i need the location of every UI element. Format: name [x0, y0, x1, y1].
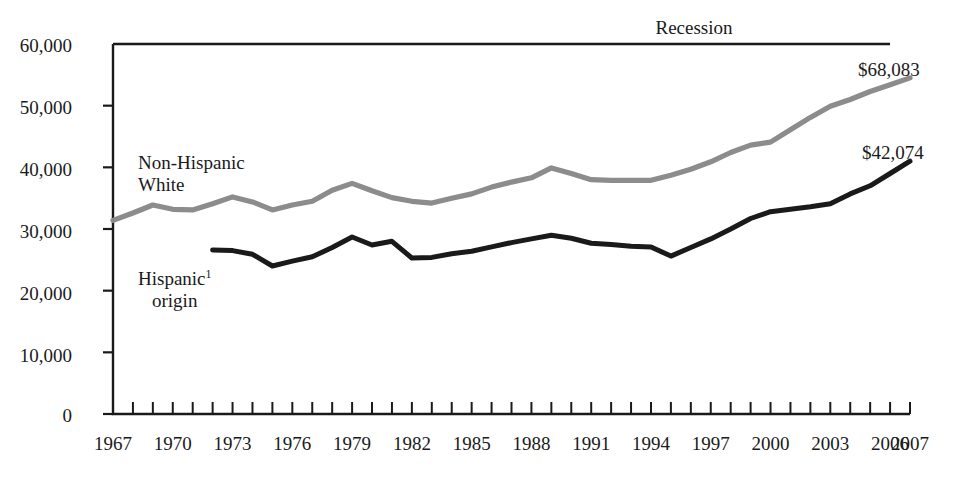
income-line-chart: 60,000 50,000 40,000 30,000 20,000 10,00…	[0, 0, 960, 487]
series-label-non-hispanic-white-line2: White	[138, 174, 245, 196]
axis-spines	[113, 44, 910, 414]
x-tick-label-1967: 1967	[83, 434, 143, 453]
x-tick-label-1982: 1982	[382, 434, 442, 453]
series-label-hispanic-origin: Hispanic1 origin	[138, 268, 212, 313]
series-label-non-hispanic-white: Non-Hispanic White	[138, 152, 245, 197]
series-line-non-hispanic-white	[113, 78, 910, 221]
x-tick-label-1973: 1973	[203, 434, 263, 453]
series-label-hispanic-origin-line1: Hispanic1	[138, 268, 212, 290]
x-tick-label-1979: 1979	[322, 434, 382, 453]
end-label-non-hispanic-white: $68,083	[858, 60, 920, 79]
x-tick-label-2003: 2003	[800, 434, 860, 453]
x-tick-label-1970: 1970	[143, 434, 203, 453]
chart-canvas	[0, 0, 960, 487]
x-tick-label-1991: 1991	[561, 434, 621, 453]
series-label-hispanic-origin-text: Hispanic	[138, 268, 206, 289]
series-line-hispanic-origin	[213, 161, 910, 266]
x-tick-label-1985: 1985	[442, 434, 502, 453]
y-tick-label-30000: 30,000	[20, 222, 72, 241]
y-tick-label-10000: 10,000	[20, 346, 72, 365]
footnote-marker-1: 1	[206, 267, 212, 281]
end-label-hispanic-origin: $42,074	[862, 143, 924, 162]
x-tick-label-1997: 1997	[681, 434, 741, 453]
x-tick-label-2007: 2007	[880, 434, 940, 453]
series-label-non-hispanic-white-line1: Non-Hispanic	[138, 152, 245, 174]
y-tick-label-20000: 20,000	[20, 284, 72, 303]
y-tick-label-50000: 50,000	[20, 98, 72, 117]
x-tick-label-1994: 1994	[621, 434, 681, 453]
x-tick-label-1988: 1988	[501, 434, 561, 453]
y-tick-label-60000: 60,000	[20, 36, 72, 55]
recession-label: Recession	[655, 18, 732, 37]
y-tick-label-40000: 40,000	[20, 160, 72, 179]
x-tick-label-1976: 1976	[262, 434, 322, 453]
y-tick-label-0: 0	[63, 406, 73, 425]
series-label-hispanic-origin-line2: origin	[138, 290, 212, 312]
x-tick-label-2000: 2000	[741, 434, 801, 453]
